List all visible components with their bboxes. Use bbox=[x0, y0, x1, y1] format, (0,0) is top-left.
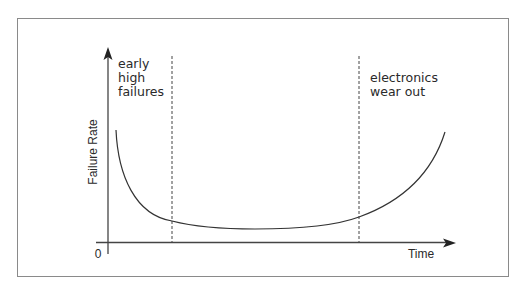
y-axis bbox=[104, 47, 113, 254]
annotation-line: failures bbox=[118, 84, 164, 99]
annotation-line: wear out bbox=[370, 84, 425, 99]
early-high-failures-annotation: early high failures bbox=[118, 56, 164, 99]
failure-rate-curve bbox=[116, 130, 445, 229]
origin-label: 0 bbox=[95, 247, 102, 261]
annotation-line: electronics bbox=[370, 70, 438, 85]
y-axis-label: Failure Rate bbox=[86, 119, 100, 185]
annotation-line: early bbox=[118, 56, 150, 71]
annotation-line: high bbox=[118, 70, 145, 85]
electronics-wear-out-annotation: electronics wear out bbox=[370, 70, 438, 99]
bathtub-chart: Failure Rate Time 0 early high failures … bbox=[0, 0, 524, 294]
x-axis bbox=[96, 239, 456, 248]
x-axis-label: Time bbox=[408, 247, 435, 261]
